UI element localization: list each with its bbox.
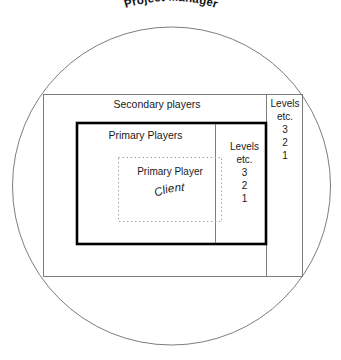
levels-outer-value-2: 2 xyxy=(267,136,303,149)
levels-inner-heading: Levels xyxy=(222,140,267,153)
client-label: Client xyxy=(152,181,185,199)
diagram-canvas: Project Manager Client Secondary players… xyxy=(0,0,341,360)
primary-players-label: Primary Players xyxy=(76,130,215,141)
nested-containment-diagram: Project Manager Client xyxy=(0,0,341,360)
levels-column-inner: Levels etc. 3 2 1 xyxy=(222,140,267,205)
levels-column-outer: Levels etc. 3 2 1 xyxy=(267,97,303,162)
secondary-players-label: Secondary players xyxy=(43,99,271,110)
levels-outer-value-3: 3 xyxy=(267,123,303,136)
levels-inner-value-3: 3 xyxy=(222,166,267,179)
levels-outer-heading: Levels xyxy=(267,97,303,110)
levels-outer-etc: etc. xyxy=(267,110,303,123)
levels-inner-value-1: 1 xyxy=(222,192,267,205)
levels-inner-etc: etc. xyxy=(222,153,267,166)
levels-inner-value-2: 2 xyxy=(222,179,267,192)
levels-outer-value-1: 1 xyxy=(267,149,303,162)
primary-player-label: Primary Player xyxy=(118,167,222,178)
project-manager-title: Project Manager xyxy=(123,0,220,10)
